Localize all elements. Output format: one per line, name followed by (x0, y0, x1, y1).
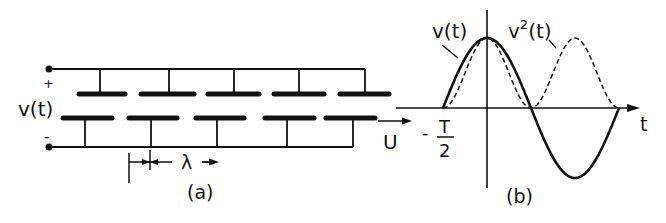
figure-a (46, 66, 413, 184)
velocity-label: U (383, 130, 398, 154)
voltage-label: v(t) (18, 97, 53, 121)
velocity-arrow (378, 118, 412, 125)
curve-v2-label: v2(t) (508, 17, 552, 43)
curve-v2-label-sup: 2 (520, 17, 528, 32)
time-axis-label: t (640, 113, 647, 135)
caption-b: (b) (506, 185, 533, 207)
wavelength-dimension (129, 150, 219, 183)
wavelength-label: λ (181, 151, 192, 173)
top-electrodes (79, 69, 389, 94)
curve-v-squared (443, 38, 619, 108)
curve-v2-label-tail: (t) (528, 19, 551, 43)
v-label-leader (442, 45, 458, 58)
caption-a: (a) (187, 181, 213, 203)
time-axis-arrowhead (627, 104, 640, 112)
minus-sign: - (44, 128, 49, 146)
figure: + v(t) - λ U (a) v(t) v2(t) t - T 2 (b) (0, 0, 666, 223)
half-period-denominator: 2 (439, 140, 450, 161)
bottom-electrodes (63, 118, 375, 147)
curve-v-label: v(t) (432, 19, 467, 43)
plus-sign: + (43, 76, 54, 91)
half-period-sign: - (422, 122, 429, 143)
half-period-numerator: T (438, 116, 451, 137)
curve-v2-label-base: v (508, 19, 520, 43)
